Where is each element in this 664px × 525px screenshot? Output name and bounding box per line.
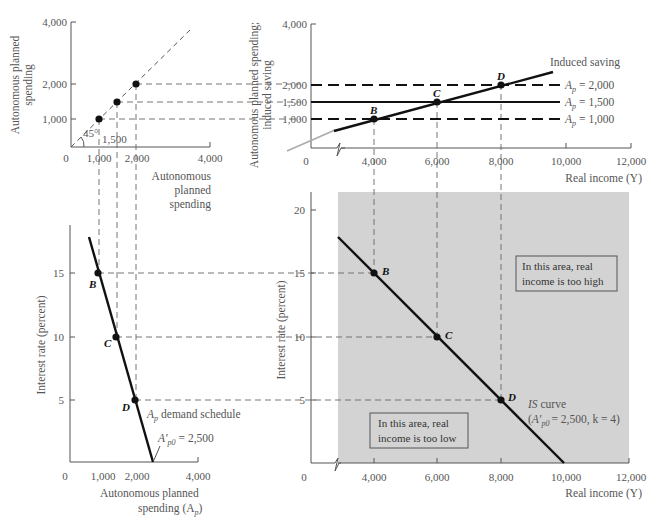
svg-text:0: 0: [301, 471, 307, 483]
svg-text:spending: spending: [169, 198, 211, 211]
panel-top-left: 4,000 2,000 1,000 0 1,000 2,000 4,000 45…: [9, 16, 223, 211]
svg-text:0: 0: [62, 470, 68, 482]
svg-text:1,000: 1,000: [42, 113, 67, 125]
svg-text:5: 5: [300, 394, 306, 406]
svg-text:15: 15: [53, 267, 65, 279]
svg-text:20: 20: [294, 204, 306, 216]
svg-text:C: C: [445, 329, 453, 341]
svg-text:Real income (Y): Real income (Y): [565, 487, 642, 500]
svg-text:2,000: 2,000: [125, 152, 150, 164]
svg-text:Ap= 1,500: Ap= 1,500: [564, 96, 615, 111]
svg-text:2,000: 2,000: [125, 470, 150, 482]
svg-text:4,000: 4,000: [42, 16, 67, 28]
svg-text:4,000: 4,000: [198, 152, 223, 164]
svg-text:4,000: 4,000: [362, 155, 387, 167]
svg-text:planned: planned: [175, 184, 212, 197]
svg-text:Ap= 2,000: Ap= 2,000: [564, 79, 615, 94]
svg-text:B: B: [369, 104, 377, 116]
svg-text:C: C: [104, 337, 112, 349]
svg-text:In this area, real: In this area, real: [522, 260, 593, 272]
svg-text:income is too low: income is too low: [378, 432, 457, 444]
svg-text:Interest rate (percent): Interest rate (percent): [275, 280, 288, 379]
svg-text:1,000: 1,000: [282, 113, 307, 125]
svg-text:D: D: [507, 391, 516, 403]
svg-text:8,000: 8,000: [489, 471, 514, 483]
svg-text:Real income (Y): Real income (Y): [565, 172, 642, 185]
svg-text:Autonomous planned: Autonomous planned: [100, 487, 199, 500]
svg-text:1,500: 1,500: [102, 133, 127, 145]
svg-text:12,000: 12,000: [616, 155, 647, 167]
svg-text:C: C: [433, 87, 441, 99]
svg-text:Autonomous: Autonomous: [152, 170, 212, 182]
svg-text:B: B: [88, 278, 96, 290]
svg-text:1,000: 1,000: [91, 470, 116, 482]
svg-text:12,000: 12,000: [616, 471, 647, 483]
svg-text:10: 10: [294, 331, 306, 343]
point-2000: [132, 80, 139, 87]
panel-top-right: B C D 4,000 2,000 1,500 1,000 0 4,000 6,…: [248, 18, 647, 185]
svg-text:4,000: 4,000: [362, 471, 387, 483]
panel-bottom-left: B C D 15 10 5 0 1,000 2,000 4,000 Apdema…: [35, 225, 241, 517]
point-1000: [95, 115, 102, 122]
svg-text:1,000: 1,000: [87, 152, 112, 164]
svg-text:B: B: [381, 265, 389, 277]
svg-text:0: 0: [303, 155, 309, 167]
svg-text:6,000: 6,000: [425, 471, 450, 483]
svg-text:induced saving: induced saving: [261, 60, 274, 130]
diagram-canvas: 4,000 2,000 1,000 0 1,000 2,000 4,000 45…: [0, 0, 664, 525]
svg-text:income is too high: income is too high: [522, 275, 604, 287]
svg-text:6,000: 6,000: [425, 155, 450, 167]
svg-text:Ap= 1,000: Ap= 1,000: [564, 113, 615, 128]
svg-text:spending: spending: [22, 64, 35, 106]
svg-text:2,000: 2,000: [42, 78, 67, 90]
svg-text:Apdemand schedule: Apdemand schedule: [146, 408, 241, 423]
svg-text:spending (Ap): spending (Ap): [138, 502, 203, 517]
svg-text:10,000: 10,000: [551, 155, 582, 167]
svg-text:D: D: [496, 70, 505, 82]
svg-text:15: 15: [294, 267, 306, 279]
svg-text:8,000: 8,000: [489, 155, 514, 167]
point-1500: [113, 98, 120, 105]
svg-text:A′p0= 2,500: A′p0= 2,500: [157, 432, 214, 447]
svg-text:Induced saving: Induced saving: [550, 56, 620, 69]
svg-text:2,000: 2,000: [282, 79, 307, 91]
svg-text:1,500: 1,500: [282, 96, 307, 108]
svg-text:D: D: [121, 401, 130, 413]
svg-text:45°: 45°: [83, 127, 98, 139]
svg-text:5: 5: [59, 394, 65, 406]
svg-text:Autonomous planned: Autonomous planned: [9, 35, 22, 134]
svg-text:In this area, real: In this area, real: [378, 417, 449, 429]
svg-text:4,000: 4,000: [282, 18, 307, 30]
svg-text:0: 0: [63, 152, 69, 164]
svg-text:Interest rate (percent): Interest rate (percent): [35, 295, 48, 394]
svg-text:10,000: 10,000: [551, 471, 582, 483]
svg-text:10: 10: [53, 331, 65, 343]
svg-text:4,000: 4,000: [186, 470, 211, 482]
svg-text:Autonomous planned spending;: Autonomous planned spending;: [248, 22, 261, 168]
is-curve-label: IS curve: [527, 398, 566, 410]
